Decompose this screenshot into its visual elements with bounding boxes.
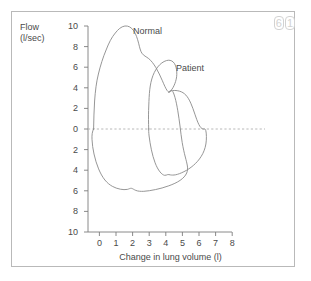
x-tick-label-7: 7 bbox=[208, 239, 224, 248]
y-axis-label-line2: (l/sec) bbox=[20, 33, 45, 44]
y-tick-label-8-neg: 8 bbox=[58, 207, 78, 216]
series-label-normal: Normal bbox=[133, 26, 162, 36]
x-tick-label-6: 6 bbox=[191, 239, 207, 248]
figure-container: Flow (l/sec) Change in lung volume (l) 1… bbox=[0, 0, 311, 281]
curve-patient bbox=[148, 60, 206, 175]
y-tick-label-0: 0 bbox=[58, 125, 78, 134]
y-tick-label-8-pos: 8 bbox=[58, 43, 78, 52]
y-tick-label-10-neg: 10 bbox=[58, 228, 78, 237]
y-tick-label-6-neg: 6 bbox=[58, 187, 78, 196]
y-tick-label-6-pos: 6 bbox=[58, 63, 78, 72]
y-tick-label-2-pos: 2 bbox=[58, 104, 78, 113]
y-tick-label-4-pos: 4 bbox=[58, 84, 78, 93]
page-badge-digit-second: 1 bbox=[285, 16, 295, 30]
page-number-badge: 61 bbox=[273, 16, 295, 30]
x-tick-label-4: 4 bbox=[158, 239, 174, 248]
y-tick-label-2-neg: 2 bbox=[58, 146, 78, 155]
y-tick-marks bbox=[84, 26, 88, 232]
x-tick-marks bbox=[99, 232, 232, 236]
y-tick-label-10-pos: 10 bbox=[58, 22, 78, 31]
page-badge-digit-first: 6 bbox=[274, 16, 284, 30]
x-tick-label-3: 3 bbox=[141, 239, 157, 248]
y-axis-label-line1: Flow bbox=[20, 22, 39, 33]
x-axis-label: Change in lung volume (l) bbox=[0, 252, 311, 263]
x-tick-label-2: 2 bbox=[125, 239, 141, 248]
curve-normal bbox=[92, 26, 188, 191]
x-tick-label-0: 0 bbox=[91, 239, 107, 248]
series-label-patient: Patient bbox=[176, 63, 204, 73]
x-tick-label-5: 5 bbox=[174, 239, 190, 248]
y-tick-label-4-neg: 4 bbox=[58, 166, 78, 175]
x-tick-label-1: 1 bbox=[108, 239, 124, 248]
x-tick-label-8: 8 bbox=[224, 239, 240, 248]
